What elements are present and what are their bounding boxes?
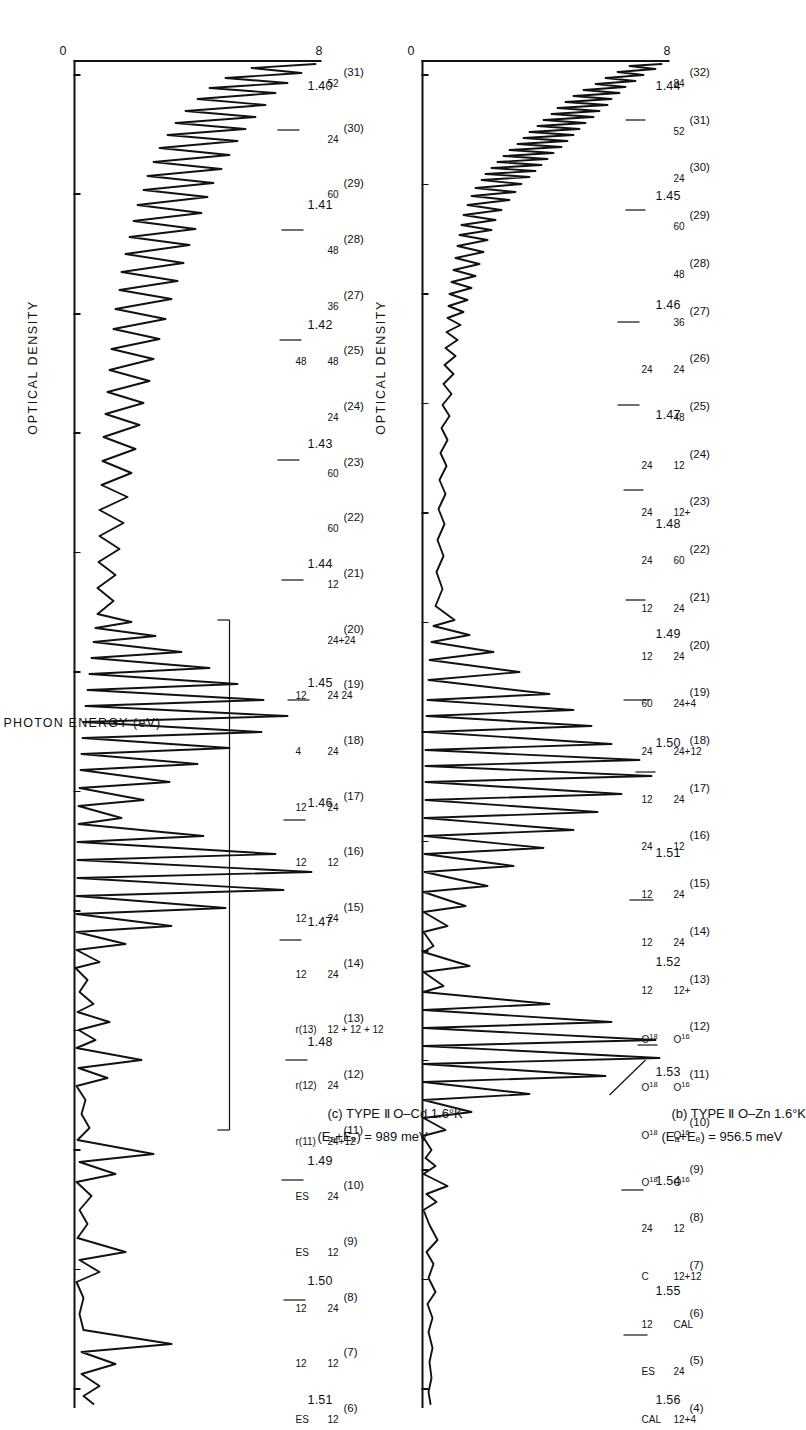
peak-secondary-label: ES — [295, 1414, 308, 1425]
peak-index-label: (27) — [689, 305, 709, 317]
peak-assignment-label: 60 — [327, 523, 338, 534]
peak-assignment-label: 12+4 — [673, 1414, 696, 1425]
peak-index-label: (28) — [343, 233, 363, 245]
peak-index-label: (25) — [689, 400, 709, 412]
peak-index-label: (7) — [343, 1346, 357, 1358]
peak-index-label: (22) — [689, 543, 709, 555]
peak-index-label: (19) — [343, 678, 363, 690]
peak-assignment-label: 12 — [327, 579, 338, 590]
peak-index-label: (32) — [689, 66, 709, 78]
peak-assignment-label: 12+ — [673, 985, 690, 996]
peak-index-label: (30) — [689, 161, 709, 173]
peak-assignment-label: 60 — [673, 221, 684, 232]
panel-b-y-top: 8 — [663, 44, 670, 58]
peak-index-label: (26) — [689, 352, 709, 364]
peak-index-label: (6) — [689, 1307, 703, 1319]
peak-assignment-label: 12+12 — [673, 1271, 701, 1282]
peak-assignment-label: 48 — [327, 245, 338, 256]
peak-assignment-label: 24 — [673, 364, 684, 375]
peak-assignment-label: 24 — [673, 794, 684, 805]
peak-secondary-label: 12 — [641, 651, 652, 662]
peak-secondary-label: 12 — [641, 603, 652, 614]
peak-assignment-label: 24 — [327, 969, 338, 980]
peak-secondary-label: CAL — [641, 1414, 660, 1425]
peak-index-label: (23) — [343, 456, 363, 468]
x-axis-title: PHOTON ENERGY (eV) — [3, 716, 161, 730]
peak-index-label: (15) — [689, 877, 709, 889]
peak-assignment-label: O16 — [673, 1032, 689, 1045]
peak-index-label: (23) — [689, 495, 709, 507]
panel-b-y-bottom: 0 — [407, 44, 414, 58]
peak-secondary-label: 12 — [295, 969, 306, 980]
peak-assignment-label: 52 — [327, 78, 338, 89]
y-axis-title-panel-c: OPTICAL DENSITY — [25, 300, 39, 435]
peak-index-label: (5) — [689, 1354, 703, 1366]
peak-assignment-label: 36 — [673, 317, 684, 328]
peak-assignment-label: 60 — [673, 555, 684, 566]
peak-assignment-label: 52 — [673, 126, 684, 137]
peak-assignment-label: 24 — [673, 1366, 684, 1377]
panel-b-annotation-leaders — [419, 60, 669, 1408]
peak-secondary-label: O18 — [641, 1032, 657, 1045]
peak-secondary-label: 12 — [641, 1319, 652, 1330]
panel-b: (b) TYPE Ⅱ O–Zn 1.6°K (Eₐ+Eₑ) = 956.5 me… — [365, 0, 695, 1430]
peak-assignment-label: 24 — [327, 134, 338, 145]
peak-assignment-label: 24 — [673, 603, 684, 614]
peak-assignment-label: O16 — [673, 1128, 689, 1141]
peak-index-label: (20) — [343, 623, 363, 635]
peak-assignment-label: 36 — [327, 301, 338, 312]
peak-index-label: (17) — [689, 782, 709, 794]
peak-index-label: (21) — [689, 591, 709, 603]
peak-secondary-label: 12 — [295, 802, 306, 813]
peak-assignment-label: 24 — [673, 937, 684, 948]
peak-secondary-label: 12 — [295, 857, 306, 868]
peak-index-label: (18) — [343, 734, 363, 746]
peak-assignment-label: 24 — [327, 913, 338, 924]
peak-assignment-label: 12+ — [673, 507, 690, 518]
peak-assignment-label: O16 — [673, 1175, 689, 1188]
peak-assignment-label: 24 — [673, 651, 684, 662]
peak-index-label: (29) — [689, 209, 709, 221]
peak-assignment-label: 24 — [327, 1191, 338, 1202]
peak-index-label: (6) — [343, 1402, 357, 1414]
peak-assignment-label: 24+12 — [327, 1136, 355, 1147]
panel-c-y-top: 8 — [315, 44, 322, 58]
peak-secondary-label: 12 — [295, 913, 306, 924]
peak-index-label: (14) — [689, 925, 709, 937]
peak-index-label: (31) — [343, 66, 363, 78]
peak-secondary-label: 12 — [295, 1303, 306, 1314]
peak-assignment-label: 48 — [673, 269, 684, 280]
panel-b-plot: 8 0 1.441.451.461.471.481.491.501.511.52… — [421, 60, 669, 1408]
peak-index-label: (19) — [689, 686, 709, 698]
peak-index-label: (31) — [689, 114, 709, 126]
peak-assignment-label: 24+24 — [327, 635, 355, 646]
peak-assignment-label: 12 — [673, 460, 684, 471]
peak-index-label: (20) — [689, 639, 709, 651]
peak-assignment-label: 12 — [327, 857, 338, 868]
peak-secondary-label: 24 — [641, 364, 652, 375]
peak-index-label: (10) — [343, 1179, 363, 1191]
peak-index-label: (28) — [689, 257, 709, 269]
peak-assignment-label: 60 — [327, 189, 338, 200]
peak-secondary-label: 12 — [295, 690, 306, 701]
y-axis-title-panel-b: OPTICAL DENSITY — [373, 300, 387, 435]
peak-index-label: (24) — [689, 448, 709, 460]
peak-assignment-label: 12 — [673, 841, 684, 852]
peak-index-label: (30) — [343, 122, 363, 134]
peak-secondary-label: 24 — [641, 555, 652, 566]
peak-assignment-label: 12 + 12 + 12 — [327, 1024, 383, 1035]
peak-secondary-label: O18 — [641, 1080, 657, 1093]
panel-c: (c) TYPE Ⅱ O–Cd 1.6°K (Eₐ+Eₑ) = 989 meV … — [17, 0, 347, 1430]
panel-c-title-text: (c) TYPE Ⅱ O–Cd 1.6°K — [327, 1106, 462, 1121]
peak-assignment-label: CAL — [673, 1319, 692, 1330]
peak-assignment-label: 48 — [673, 412, 684, 423]
peak-index-label: (18) — [689, 734, 709, 746]
peak-secondary-label: r(12) — [295, 1080, 316, 1091]
peak-assignment-label: 24 — [327, 1303, 338, 1314]
peak-secondary-label: ES — [295, 1247, 308, 1258]
peak-secondary-label: 12 — [641, 889, 652, 900]
panel-c-plot: 8 0 1.401.411.421.431.441.451.461.471.48… — [73, 60, 321, 1408]
peak-secondary-label: r(11) — [295, 1136, 315, 1147]
peak-index-label: (11) — [343, 1124, 363, 1136]
